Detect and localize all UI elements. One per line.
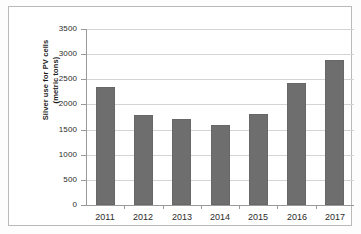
y-tick-label: 3500 [31,25,77,33]
x-tick-label-2012: 2012 [124,212,162,223]
x-tick-label-2017: 2017 [316,212,354,223]
figure-canvas: Silver use for PV cells (metric tons) 05… [0,0,361,234]
y-tick-label-wrap: 500 [29,176,77,184]
y-tick-label-wrap: 1000 [29,151,77,159]
bar-2015 [249,114,268,205]
y-tick-label-wrap: 3000 [29,50,77,58]
y-tick-label-wrap: 2500 [29,75,77,83]
x-tick-mark [239,205,240,209]
x-tick-label-2011: 2011 [86,212,124,223]
bar-2014 [211,125,230,205]
y-tick-label: 3000 [31,50,77,58]
y-tick-label: 1000 [31,151,77,159]
y-tick-label-wrap: 2000 [29,100,77,108]
x-tick-label-2014: 2014 [201,212,239,223]
x-tick-label-2015: 2015 [239,212,277,223]
plot-area [86,29,354,205]
y-tick-label-wrap: 0 [29,201,77,209]
bar-2016 [287,83,306,205]
x-tick-mark [163,205,164,209]
y-tick-label: 2500 [31,75,77,83]
y-tick-label: 500 [31,176,77,184]
x-tick-mark [316,205,317,209]
x-tick-label-2013: 2013 [163,212,201,223]
bar-2017 [325,60,344,205]
category-axis-line [86,205,354,206]
y-tick-label: 1500 [31,126,77,134]
x-tick-mark [124,205,125,209]
y-tick-label-wrap: 3500 [29,25,77,33]
chart-frame: Silver use for PV cells (metric tons) 05… [8,6,352,226]
y-tick-label-wrap: 1500 [29,126,77,134]
bar-2012 [134,115,153,205]
x-tick-mark [277,205,278,209]
x-tick-mark [201,205,202,209]
bar-2013 [172,119,191,205]
bar-2011 [96,87,115,205]
y-tick-label: 0 [31,201,77,209]
y-tick-label: 2000 [31,100,77,108]
x-tick-label-2016: 2016 [278,212,316,223]
